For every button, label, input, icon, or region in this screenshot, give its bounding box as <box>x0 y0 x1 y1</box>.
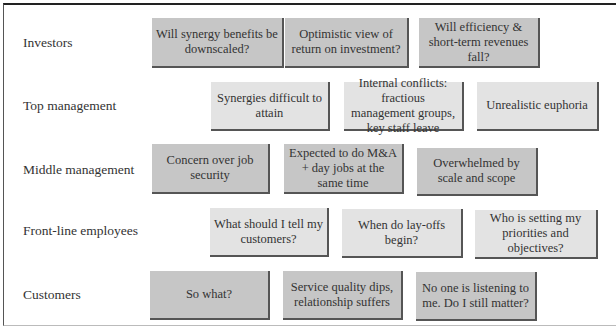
box-top-management-1: Synergies difficult to attain <box>211 82 330 131</box>
box-investors-2: Optimistic view of return on investment? <box>285 18 409 68</box>
box-front-line-3: Who is setting my priorities and objecti… <box>475 210 598 259</box>
box-top-management-3: Unrealistic euphoria <box>477 82 599 131</box>
row-label-front-line-employees: Front-line employees <box>23 223 138 239</box>
box-front-line-1: What should I tell my customers? <box>210 208 329 257</box>
box-customers-3: No one is listening to me. Do I still ma… <box>416 272 537 321</box>
row-label-middle-management: Middle management <box>23 162 134 178</box>
box-investors-3: Will efficiency & short-term revenues fa… <box>419 18 540 68</box>
box-customers-2: Service quality dips, relationship suffe… <box>283 271 403 320</box>
box-front-line-2: When do lay-offs begin? <box>342 209 463 258</box>
box-middle-management-3: Overwhelmed by scale and scope <box>417 148 538 196</box>
row-label-top-management: Top management <box>23 98 116 114</box>
box-middle-management-2: Expected to do M&A + day jobs at the sam… <box>284 144 404 194</box>
row-label-investors: Investors <box>23 35 73 51</box>
row-label-customers: Customers <box>23 287 81 303</box>
box-customers-1: So what? <box>150 271 270 320</box>
box-investors-1: Will synergy benefits be downscaled? <box>152 18 284 68</box>
box-top-management-2: Internal conflicts: fractious management… <box>344 82 464 131</box>
box-middle-management-1: Concern over job security <box>152 144 270 194</box>
